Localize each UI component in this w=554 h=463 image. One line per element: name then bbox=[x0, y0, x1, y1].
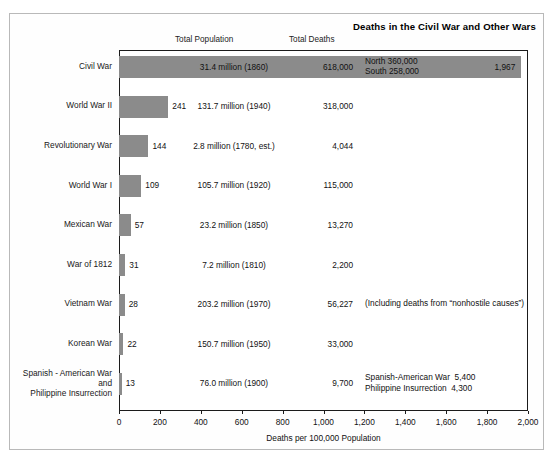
axis-tick bbox=[201, 411, 202, 414]
axis-tick-label: 400 bbox=[194, 417, 208, 427]
table-row: Revolutionary War1442.8 million (1780, e… bbox=[0, 135, 554, 174]
cell-total-deaths: 56,227 bbox=[289, 299, 353, 309]
page-title: Deaths in the Civil War and Other Wars bbox=[353, 21, 536, 32]
axis-tick-label: 1,200 bbox=[354, 417, 375, 427]
row-label-korean-war: Korean War bbox=[0, 338, 112, 348]
bar-value-label: 31 bbox=[129, 260, 138, 270]
axis-tick bbox=[364, 411, 365, 414]
cell-total-population: 76.0 million (1900) bbox=[175, 378, 293, 388]
bar bbox=[119, 96, 168, 118]
table-row: Vietnam War28203.2 million (1970)56,227(… bbox=[0, 294, 554, 333]
row-label-world-war-ii: World War II bbox=[0, 100, 112, 110]
axis-tick bbox=[119, 411, 120, 414]
bar-value-label: 1,967 bbox=[483, 62, 515, 72]
bar bbox=[119, 214, 131, 236]
axis-tick bbox=[242, 411, 243, 414]
cell-total-population: 105.7 million (1920) bbox=[175, 180, 293, 190]
bar-value-label: 144 bbox=[152, 141, 166, 151]
bar-value-label: 13 bbox=[126, 378, 135, 388]
row-label-world-war-i: World War I bbox=[0, 180, 112, 190]
x-axis-title: Deaths per 100,000 Population bbox=[119, 433, 528, 443]
axis-tick bbox=[405, 411, 406, 414]
cell-annotation: North 360,000South 258,000 bbox=[365, 56, 419, 77]
cell-total-population: 23.2 million (1850) bbox=[175, 220, 293, 230]
axis-tick bbox=[283, 411, 284, 414]
row-label-spanish-american-war-and-philippine-insurrection: Spanish - American WarandPhilippine Insu… bbox=[0, 368, 112, 399]
table-row: World War I109105.7 million (1920)115,00… bbox=[0, 175, 554, 214]
bar bbox=[119, 254, 125, 276]
table-row: Spanish - American WarandPhilippine Insu… bbox=[0, 373, 554, 412]
bar bbox=[119, 294, 125, 316]
axis-tick-label: 1,600 bbox=[436, 417, 457, 427]
bar bbox=[119, 135, 148, 157]
cell-total-deaths: 115,000 bbox=[289, 180, 353, 190]
table-row: Civil War1,96731.4 million (1860)618,000… bbox=[0, 56, 554, 95]
axis-tick-label: 800 bbox=[276, 417, 290, 427]
axis-tick bbox=[324, 411, 325, 414]
bar bbox=[119, 175, 141, 197]
row-label-war-of-1812: War of 1812 bbox=[0, 259, 112, 269]
axis-tick-label: 1,400 bbox=[395, 417, 416, 427]
bar-value-label: 57 bbox=[135, 220, 144, 230]
axis-tick bbox=[160, 411, 161, 414]
axis-tick-label: 600 bbox=[235, 417, 249, 427]
cell-total-population: 2.8 million (1780, est.) bbox=[175, 141, 293, 151]
row-label-civil-war: Civil War bbox=[0, 61, 112, 71]
cell-total-population: 31.4 million (1860) bbox=[175, 62, 293, 72]
bar bbox=[119, 333, 123, 355]
axis-tick-label: 1,800 bbox=[477, 417, 498, 427]
cell-total-deaths: 318,000 bbox=[289, 101, 353, 111]
chart-page: Deaths in the Civil War and Other Wars T… bbox=[0, 0, 554, 463]
row-label-revolutionary-war: Revolutionary War bbox=[0, 140, 112, 150]
axis-tick-label: 1,000 bbox=[313, 417, 334, 427]
table-row: Korean War22150.7 million (1950)33,000 bbox=[0, 333, 554, 372]
cell-total-deaths: 33,000 bbox=[289, 339, 353, 349]
cell-total-population: 131.7 million (1940) bbox=[175, 101, 293, 111]
axis-tick-label: 200 bbox=[153, 417, 167, 427]
axis-tick bbox=[446, 411, 447, 414]
cell-total-deaths: 9,700 bbox=[289, 378, 353, 388]
axis-tick bbox=[528, 411, 529, 414]
axis-tick-label: 2,000 bbox=[518, 417, 539, 427]
cell-total-population: 7.2 million (1810) bbox=[175, 260, 293, 270]
cell-annotation: (Including deaths from “nonhostile cause… bbox=[365, 298, 524, 308]
bar-value-label: 22 bbox=[127, 339, 136, 349]
axis-tick-label: 0 bbox=[117, 417, 122, 427]
cell-total-population: 203.2 million (1970) bbox=[175, 299, 293, 309]
row-label-mexican-war: Mexican War bbox=[0, 219, 112, 229]
bar bbox=[119, 373, 122, 395]
row-label-vietnam-war: Vietnam War bbox=[0, 298, 112, 308]
bar-value-label: 109 bbox=[145, 180, 159, 190]
cell-total-deaths: 13,270 bbox=[289, 220, 353, 230]
cell-total-deaths: 2,200 bbox=[289, 260, 353, 270]
x-axis: 02004006008001,0001,2001,4001,6001,8002,… bbox=[119, 411, 528, 412]
cell-total-population: 150.7 million (1950) bbox=[175, 339, 293, 349]
column-header-total-deaths: Total Deaths bbox=[289, 35, 335, 44]
bar-value-label: 28 bbox=[129, 299, 138, 309]
table-row: Mexican War5723.2 million (1850)13,270 bbox=[0, 214, 554, 253]
cell-total-deaths: 4,044 bbox=[289, 141, 353, 151]
cell-total-deaths: 618,000 bbox=[289, 62, 353, 72]
table-row: War of 1812317.2 million (1810)2,200 bbox=[0, 254, 554, 293]
column-header-total-population: Total Population bbox=[175, 35, 233, 44]
table-row: World War II241131.7 million (1940)318,0… bbox=[0, 96, 554, 135]
cell-annotation: Spanish-American War 5,400Philippine Ins… bbox=[365, 372, 475, 393]
axis-tick bbox=[487, 411, 488, 414]
